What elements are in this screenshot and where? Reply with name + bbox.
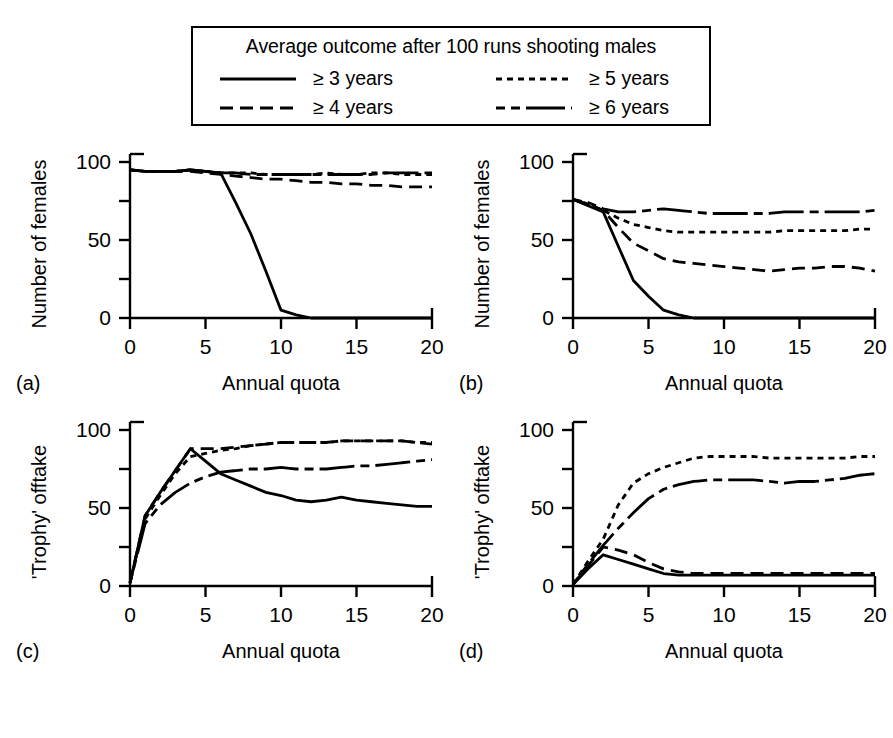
y-tick-label: 100 (76, 150, 111, 173)
line-style-dashdot-icon (495, 101, 573, 115)
panel-c: 05010005101520'Trophy' offtake(c)Annual … (0, 408, 450, 706)
series-line-dashdot (130, 170, 432, 175)
x-tick-label: 15 (788, 335, 811, 358)
x-tick-label: 10 (712, 335, 735, 358)
series-line-dashed (130, 441, 432, 583)
y-axis-title: 'Trophy' offtake (28, 445, 50, 579)
y-axis-title: Number of females (471, 160, 493, 329)
series-line-dashed (573, 547, 875, 584)
legend-label-ge6: ≥ 6 years (589, 96, 669, 119)
series-line-solid (573, 555, 875, 585)
x-tick-label: 0 (567, 603, 579, 626)
x-tick-label: 15 (788, 603, 811, 626)
legend-title: Average outcome after 100 runs shooting … (193, 35, 709, 58)
legend-entry-ge6: ≥ 6 years (451, 96, 709, 119)
x-tick-label: 0 (124, 335, 136, 358)
legend-entry-ge4: ≥ 4 years (193, 96, 451, 119)
y-tick-label: 50 (88, 496, 111, 519)
y-tick-label: 0 (542, 306, 554, 329)
panel-letter: (d) (459, 640, 483, 662)
x-tick-label: 0 (124, 603, 136, 626)
x-tick-label: 20 (863, 335, 886, 358)
legend-label-ge4: ≥ 4 years (313, 96, 393, 119)
y-tick-label: 0 (99, 574, 111, 597)
line-style-solid-icon (219, 72, 297, 86)
x-tick-label: 15 (345, 603, 368, 626)
legend-row: ≥ 3 years ≥ 5 years (193, 64, 709, 93)
legend-row: ≥ 4 years ≥ 6 years (193, 93, 709, 122)
series-line-dashed (573, 199, 875, 271)
line-style-dotted-icon (495, 72, 573, 86)
series-line-dotted (130, 441, 432, 583)
series-line-dashdot (573, 474, 875, 585)
legend-rows: ≥ 3 years ≥ 5 years (193, 64, 709, 122)
y-tick-label: 100 (519, 150, 554, 173)
panel-a: 05010005101520Number of females(a)Annual… (0, 140, 450, 438)
y-axis-title: 'Trophy' offtake (471, 445, 493, 579)
x-axis-title: Annual quota (665, 640, 784, 662)
figure-root: Average outcome after 100 runs shooting … (0, 0, 893, 738)
x-tick-label: 10 (269, 335, 292, 358)
series-line-solid (130, 170, 432, 318)
panel-d: 05010005101520'Trophy' offtake(d)Annual … (443, 408, 893, 706)
x-tick-label: 20 (420, 335, 443, 358)
y-tick-label: 0 (99, 306, 111, 329)
legend-label-ge5: ≥ 5 years (589, 67, 669, 90)
line-style-dashed-icon (219, 101, 297, 115)
x-tick-label: 5 (200, 603, 212, 626)
x-tick-label: 20 (863, 603, 886, 626)
y-tick-label: 50 (531, 228, 554, 251)
y-tick-label: 0 (542, 574, 554, 597)
legend-entry-ge5: ≥ 5 years (451, 67, 709, 90)
legend: Average outcome after 100 runs shooting … (191, 26, 711, 126)
panel-letter: (c) (16, 640, 39, 662)
series-line-dashdot (573, 199, 875, 213)
y-tick-label: 100 (519, 418, 554, 441)
x-tick-label: 0 (567, 335, 579, 358)
y-tick-label: 50 (531, 496, 554, 519)
x-axis-title: Annual quota (665, 372, 784, 394)
y-tick-label: 50 (88, 228, 111, 251)
panel-letter: (a) (16, 372, 40, 394)
series-line-dashdot (130, 460, 432, 583)
x-axis-title: Annual quota (222, 372, 341, 394)
legend-entry-ge3: ≥ 3 years (193, 67, 451, 90)
x-tick-label: 10 (712, 603, 735, 626)
series-line-dotted (573, 457, 875, 585)
x-tick-label: 5 (200, 335, 212, 358)
panel-b: 05010005101520Number of females(b)Annual… (443, 140, 893, 438)
y-tick-label: 100 (76, 418, 111, 441)
x-axis-title: Annual quota (222, 640, 341, 662)
x-tick-label: 10 (269, 603, 292, 626)
x-tick-label: 20 (420, 603, 443, 626)
y-axis-title: Number of females (28, 160, 50, 329)
panel-letter: (b) (459, 372, 483, 394)
legend-label-ge3: ≥ 3 years (313, 67, 393, 90)
series-line-dotted (573, 199, 875, 232)
x-tick-label: 5 (643, 335, 655, 358)
x-tick-label: 15 (345, 335, 368, 358)
x-tick-label: 5 (643, 603, 655, 626)
